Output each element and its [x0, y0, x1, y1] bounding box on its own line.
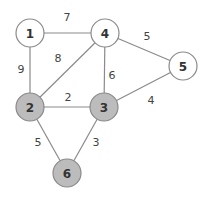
weighted-graph: 798652453 123456 — [0, 0, 210, 200]
edge-weight-3-6: 3 — [93, 136, 100, 149]
edge-weight-1-2: 9 — [18, 63, 25, 76]
node-4: 4 — [91, 19, 119, 47]
node-2: 2 — [16, 93, 44, 121]
nodes-layer: 123456 — [16, 19, 197, 187]
node-5: 5 — [169, 52, 197, 80]
node-6: 6 — [53, 159, 81, 187]
node-label: 2 — [26, 101, 34, 115]
edge-weight-4-5: 5 — [144, 30, 151, 43]
node-label: 1 — [26, 27, 34, 41]
node-1: 1 — [16, 19, 44, 47]
node-label: 5 — [179, 60, 187, 74]
edge-weight-3-5: 4 — [148, 94, 155, 107]
node-3: 3 — [90, 93, 118, 121]
node-label: 4 — [101, 27, 109, 41]
edge-weight-4-3: 6 — [109, 69, 116, 82]
edge-weight-2-3: 2 — [65, 91, 72, 104]
edge-weight-2-4: 8 — [55, 52, 62, 65]
node-label: 3 — [100, 101, 108, 115]
node-label: 6 — [63, 167, 71, 181]
edge-weight-2-6: 5 — [35, 136, 42, 149]
edge-weight-1-4: 7 — [64, 11, 71, 24]
